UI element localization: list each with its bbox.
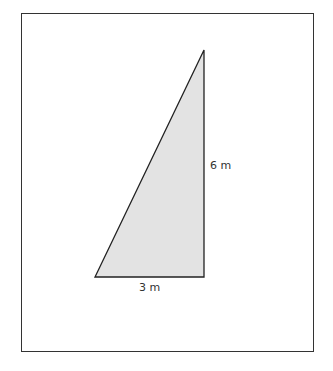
base-label: 3 m (139, 281, 160, 294)
height-label: 6 m (210, 159, 231, 172)
triangle-diagram (0, 0, 333, 371)
right-triangle (95, 50, 204, 277)
